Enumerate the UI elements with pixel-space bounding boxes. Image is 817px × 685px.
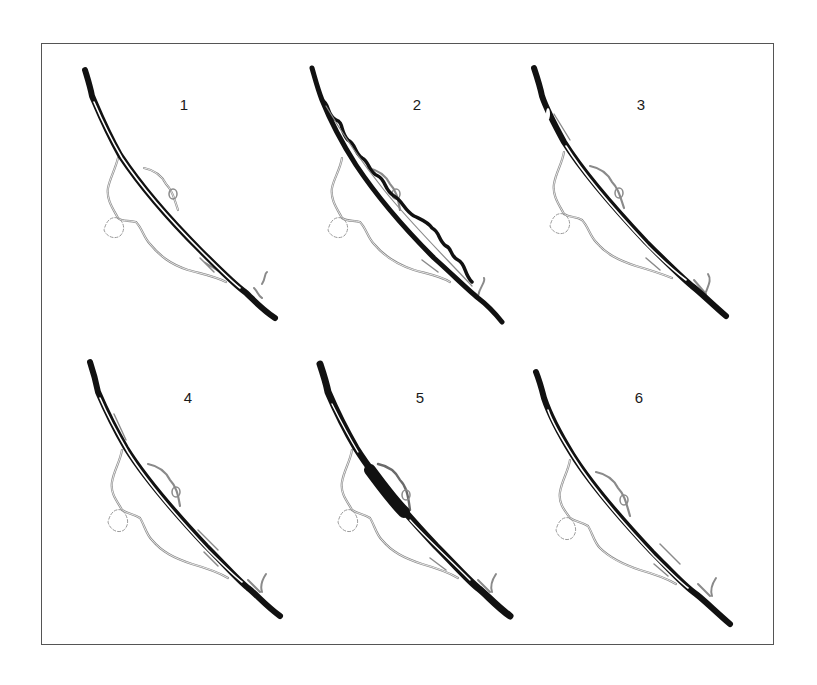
- panel-label: 5: [416, 389, 424, 406]
- panel-label: 4: [184, 389, 192, 406]
- panel-5: 5: [300, 352, 530, 642]
- panel-label: 6: [635, 389, 643, 406]
- panel-2: 2: [300, 60, 530, 350]
- panel-label: 2: [413, 96, 421, 113]
- panel-3: 3: [530, 60, 760, 350]
- panel-1: 1: [70, 60, 300, 350]
- river-diagram-6: [530, 352, 760, 642]
- panel-4: 4: [70, 352, 300, 642]
- panel-6: 6: [530, 352, 760, 642]
- panel-label: 1: [180, 96, 188, 113]
- panel-label: 3: [637, 96, 645, 113]
